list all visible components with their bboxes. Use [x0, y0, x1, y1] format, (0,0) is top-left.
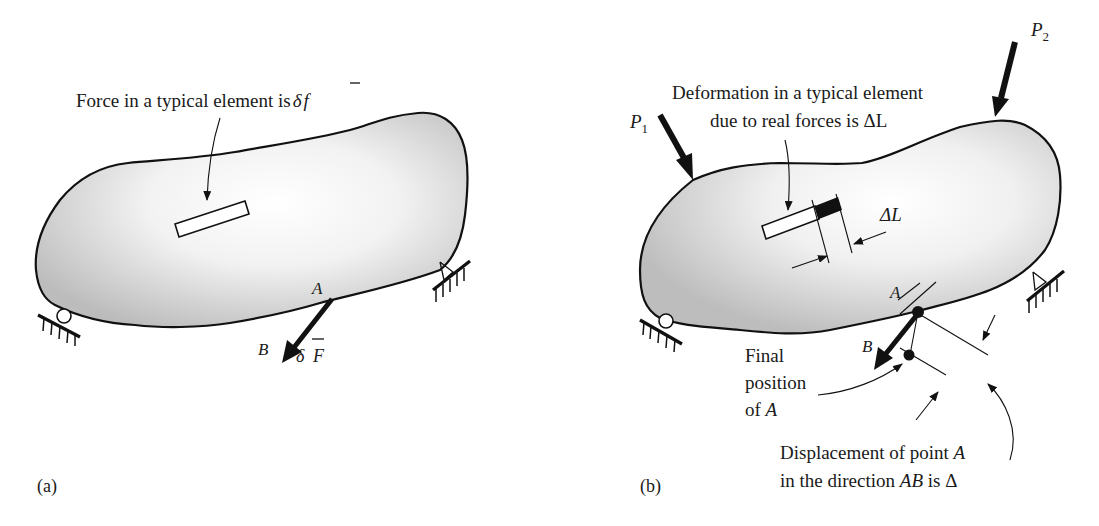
displacement-caption-line1: Displacement of point A [780, 442, 966, 463]
delta-l-label: ΔL [879, 204, 902, 225]
panel-b: P1 P2 Deformation in a typical element d… [629, 19, 1064, 497]
deformation-caption-line1: Deformation in a typical element [672, 82, 924, 103]
force-symbol-a: δ [296, 346, 305, 366]
displacement-caption-line2: in the direction AB is Δ [780, 470, 957, 491]
pin-support-b [1027, 271, 1064, 313]
panel-label-b: (b) [640, 476, 661, 497]
body-outline-b [640, 121, 1060, 334]
roller-support-a [38, 309, 80, 346]
force-var-a: F [312, 346, 325, 366]
point-a-label-b: A [889, 283, 901, 302]
final-position-line1: Final [745, 345, 784, 366]
point-b-label-a: B [258, 340, 269, 359]
panel-label-a: (a) [37, 476, 57, 497]
load-p1-arrow [660, 115, 693, 180]
final-position-line2: position [745, 372, 807, 393]
final-position-line3: of A [745, 399, 778, 420]
unit-load-arrow-b [874, 316, 916, 370]
load-p2-label: P2 [1030, 19, 1049, 44]
body-outline-a [36, 113, 468, 327]
load-p2-arrow [992, 42, 1015, 117]
element-caption-a: Force in a typical element isδf [76, 90, 312, 111]
final-position-dot [904, 350, 915, 361]
point-a-label-a: A [311, 279, 323, 298]
virtual-work-figure: Force in a typical element isδf A B δ F [0, 0, 1099, 526]
deformation-caption-line2: due to real forces is ΔL [710, 110, 887, 131]
point-b-label-b: B [862, 337, 873, 356]
panel-a: Force in a typical element isδf A B δ F [36, 83, 470, 497]
load-p1-label: P1 [629, 111, 648, 136]
